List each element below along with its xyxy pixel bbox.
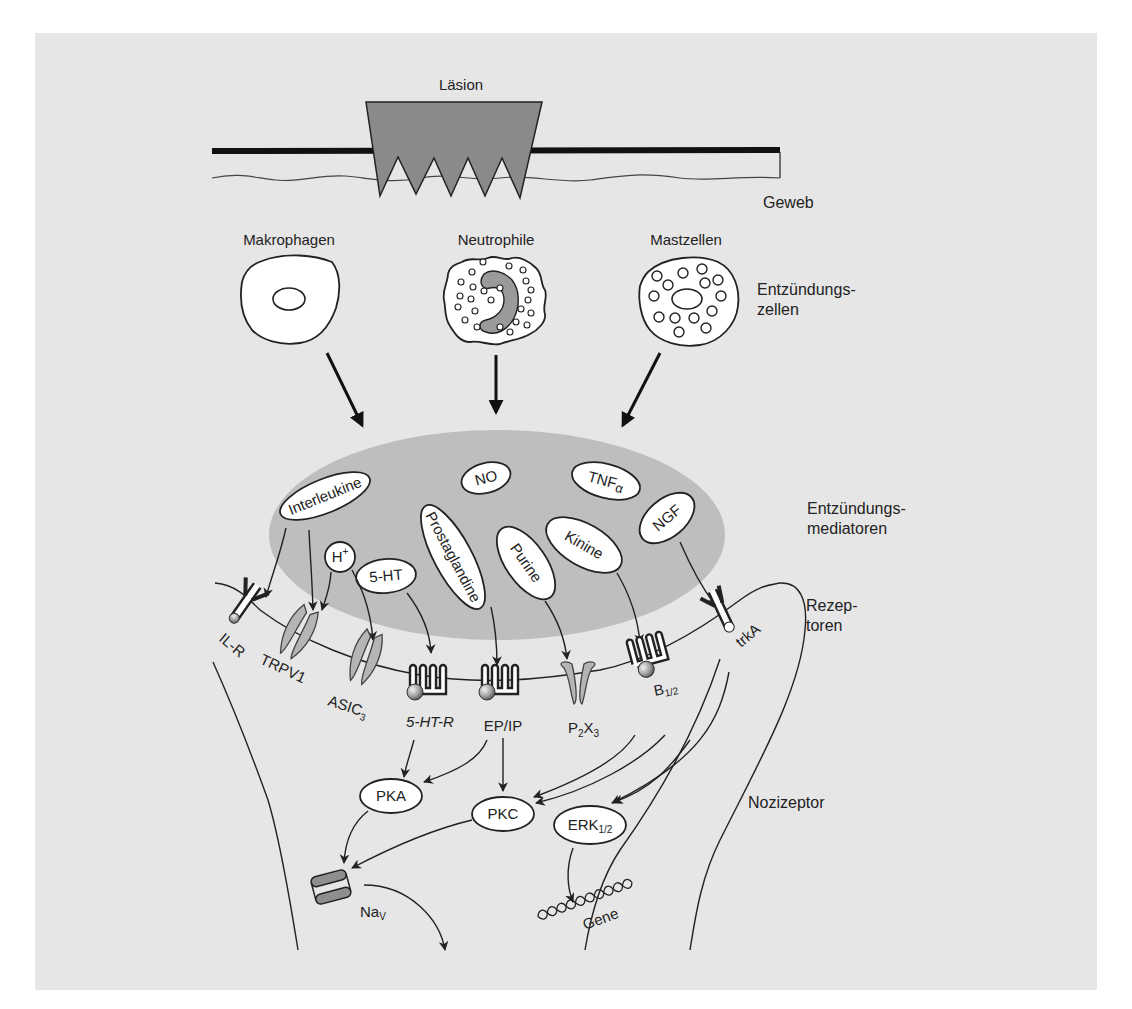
pkc-node: PKC — [472, 797, 534, 831]
inflammatory-pain-diagram: Läsion Geweb Makrophagen Neutrophile Mas… — [0, 0, 1132, 1009]
neutrophil-icon — [444, 257, 546, 345]
pka-node: PKA — [360, 779, 422, 813]
nociceptor-side-label: Nozizeptor — [748, 794, 825, 811]
mast-cell-icon — [639, 257, 738, 345]
ep-ip-label: EP/IP — [484, 717, 522, 734]
macrophage-label: Makrophagen — [243, 231, 335, 248]
svg-text:PKA: PKA — [376, 787, 406, 804]
svg-text:PKC: PKC — [488, 805, 519, 822]
lesion-label: Läsion — [439, 76, 483, 93]
neutrophil-label: Neutrophile — [458, 231, 535, 248]
erk12-node: ERK1/2 — [554, 806, 626, 844]
ep-ip-gpcr-icon — [479, 665, 518, 700]
mediator-h-plus: H+ — [325, 542, 355, 572]
tissue-label: Geweb — [763, 194, 814, 211]
5ht-r-gpcr-icon — [407, 665, 446, 700]
5ht-r-label: 5-HT-R — [406, 713, 454, 730]
svg-text:5-HT: 5-HT — [369, 566, 404, 586]
mast-cell-label: Mastzellen — [650, 231, 722, 248]
